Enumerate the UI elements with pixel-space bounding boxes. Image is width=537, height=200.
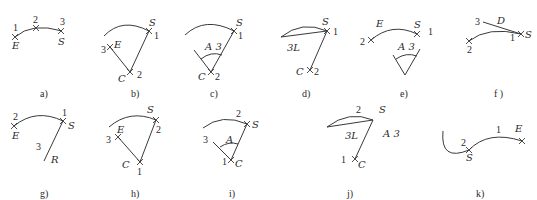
point-label-2: 2	[215, 71, 220, 82]
direction-label: D	[496, 15, 505, 26]
angle-label: A 3	[204, 41, 222, 52]
point-label-1: 1	[222, 156, 227, 167]
point-label-2: 2	[360, 36, 365, 47]
end-label: E	[11, 40, 20, 51]
panel-e: E 2 S 1 A 3 e)	[360, 18, 433, 100]
center-label: C	[358, 159, 366, 170]
cross-marker	[127, 69, 133, 75]
point-label-2: 2	[137, 69, 142, 80]
point-label-1: 1	[238, 30, 243, 41]
arc	[14, 116, 63, 126]
point-label-2: 2	[356, 104, 361, 115]
start-label: S	[252, 119, 259, 130]
point-label-1: 1	[510, 32, 515, 43]
cross-marker	[519, 138, 525, 144]
panel-k: 2 S 1 E k)	[443, 123, 525, 200]
point-label-3: 3	[36, 141, 41, 152]
panel-j: 2 S 3L A 3 1 C j)	[327, 104, 400, 200]
center-label: C	[198, 71, 206, 82]
radius-label: R	[50, 154, 59, 165]
panel-d: S 1 3L C 2 d)	[281, 16, 338, 100]
radius-line	[231, 124, 247, 160]
end-label: E	[11, 130, 20, 141]
point-label-2: 2	[13, 111, 18, 122]
cross-marker	[58, 28, 64, 34]
cross-marker	[208, 69, 214, 75]
point-label-1: 1	[333, 26, 338, 37]
center-label: C	[296, 66, 304, 77]
point-label-3: 3	[106, 134, 111, 145]
cross-marker	[228, 157, 234, 163]
start-label: S	[68, 120, 75, 131]
panel-g: 2 1 S E 3 R g)	[11, 107, 75, 200]
start-label: S	[236, 17, 243, 28]
point-label-1: 1	[496, 124, 501, 135]
caption: a)	[40, 88, 48, 100]
point-label-2: 2	[156, 124, 161, 135]
start-label: S	[414, 19, 421, 30]
start-label: S	[149, 17, 156, 28]
panel-i: 2 S 3 A 1 C i)	[203, 108, 259, 200]
center-label: C	[118, 73, 126, 84]
cross-marker	[244, 121, 250, 127]
cross-marker	[414, 31, 420, 37]
start-label: S	[147, 104, 154, 115]
arc	[15, 28, 62, 37]
caption: g)	[40, 188, 48, 200]
point-label-1: 1	[341, 154, 346, 165]
length-label: 3L	[345, 130, 358, 141]
arc	[371, 29, 417, 40]
point-label-1: 1	[137, 166, 142, 177]
angle-label: A 3	[397, 41, 415, 52]
caption: e)	[400, 88, 408, 100]
caption: i)	[229, 188, 235, 200]
caption: b)	[131, 88, 139, 100]
cross-marker	[146, 28, 152, 34]
center-label: C	[235, 158, 243, 169]
start-label: S	[322, 16, 329, 27]
panel-b: 3 E S 1 C 2 b)	[101, 17, 159, 100]
caption: h)	[131, 188, 139, 200]
start-label: S	[466, 152, 473, 163]
cross-marker	[107, 44, 113, 50]
radius-line	[140, 120, 156, 162]
point-label-2: 2	[461, 137, 466, 148]
cross-marker	[231, 28, 237, 34]
chord-line	[327, 120, 373, 127]
caption: c)	[210, 88, 218, 100]
end-label: E	[514, 123, 523, 134]
cross-marker	[60, 118, 66, 124]
point-label-3: 3	[203, 134, 208, 145]
caption: f )	[494, 88, 503, 100]
radius-line	[110, 47, 130, 72]
point-label-3: 3	[60, 16, 65, 27]
caption: k)	[476, 188, 484, 200]
end-label: E	[375, 18, 384, 29]
cross-marker	[307, 67, 313, 73]
caption: d)	[302, 88, 310, 100]
panel-a: 1 2 3 E S a)	[11, 14, 65, 100]
arc	[203, 119, 247, 128]
length-label: 3L	[287, 42, 300, 53]
end-label: E	[113, 39, 122, 50]
panel-c: S 1 A 3 C 2 c)	[185, 17, 243, 100]
point-label-1: 1	[428, 26, 433, 37]
point-label-1: 1	[62, 107, 67, 118]
arc	[327, 116, 373, 127]
arc-methods-figure: 1 2 3 E S a) 3 E S 1 C 2 b) S 1 A 3 C 2 …	[0, 0, 537, 200]
radius-line	[310, 31, 327, 70]
angle-side	[405, 49, 420, 75]
start-label: S	[525, 29, 532, 40]
panel-f: 3 D 1 S 2 f )	[466, 15, 532, 100]
arc	[104, 25, 149, 36]
end-label: E	[116, 124, 125, 135]
cross-marker	[153, 117, 159, 123]
panel-h: S 2 E 3 C 1 h)	[106, 104, 161, 200]
cross-marker	[11, 123, 17, 129]
angle-label: A	[225, 134, 233, 145]
point-label-1: 1	[13, 22, 18, 33]
point-label-2: 2	[314, 66, 319, 77]
arc	[469, 137, 522, 150]
arc	[185, 24, 234, 35]
angle-arc	[396, 55, 417, 59]
